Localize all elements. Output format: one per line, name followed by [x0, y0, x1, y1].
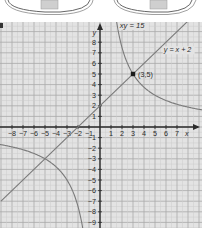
x-tick-label: −8 [8, 129, 16, 138]
intersection-point-marker [131, 72, 135, 76]
y-tick-label: 7 [92, 48, 96, 57]
hyperbola-label: xy = 15 [119, 21, 145, 30]
figure-marker [0, 23, 3, 28]
y-tick-label: 2 [92, 101, 96, 110]
x-tick-label: 1 [109, 129, 113, 138]
x-tick-label: −5 [41, 129, 49, 138]
y-tick-label: −7 [88, 197, 96, 206]
y-tick-label: −8 [88, 207, 96, 216]
x-tick-label: 6 [164, 129, 168, 138]
y-tick-label: −4 [88, 165, 96, 174]
x-axis-label: x [184, 129, 189, 138]
x-tick-label: 5 [153, 129, 157, 138]
x-tick-label: −7 [19, 129, 27, 138]
y-tick-label: −6 [88, 186, 96, 195]
x-tick-label: 4 [142, 129, 146, 138]
tray-left-illustration [5, 0, 93, 15]
y-tick-label: 4 [92, 80, 96, 89]
y-tick-label: 8 [92, 38, 96, 47]
y-tick-label: 6 [92, 59, 96, 68]
x-tick-label: 2 [120, 129, 124, 138]
chart-canvas: −8−7−6−5−4−3−2−11234567x87654321−1−2−3−4… [0, 0, 202, 228]
line-label: y = x + 2 [163, 45, 192, 54]
y-tick-label: −2 [88, 144, 96, 153]
y-tick-label: 3 [92, 91, 96, 100]
intersection-label: (3,5) [138, 70, 153, 79]
x-tick-label: 3 [131, 129, 135, 138]
y-tick-label: −5 [88, 176, 96, 185]
y-tick-label: −3 [88, 154, 96, 163]
y-axis-label: y [91, 28, 96, 37]
x-tick-label: −3 [63, 129, 71, 138]
y-tick-label: 5 [92, 70, 96, 79]
tray-right-illustration [114, 0, 196, 15]
x-tick-label: −4 [52, 129, 60, 138]
figure: −8−7−6−5−4−3−2−11234567x87654321−1−2−3−4… [0, 0, 202, 228]
x-tick-label: 7 [175, 129, 179, 138]
x-tick-label: −6 [30, 129, 38, 138]
y-tick-label: −1 [88, 133, 96, 142]
y-tick-label: −9 [88, 218, 96, 227]
plot-area: −8−7−6−5−4−3−2−11234567x87654321−1−2−3−4… [0, 13, 202, 228]
